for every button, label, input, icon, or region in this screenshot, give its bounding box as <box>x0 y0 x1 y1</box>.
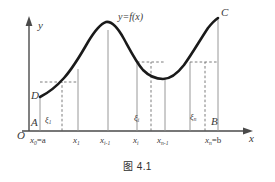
y-axis-label: y <box>38 20 43 31</box>
tick-label-xn: xn=b <box>205 136 221 145</box>
rectangle-tops <box>40 62 218 82</box>
point-a-label: A <box>31 117 38 128</box>
tick-label-x0: x0=a <box>30 136 46 145</box>
point-d-label: D <box>31 90 39 101</box>
y-axis <box>26 16 33 131</box>
curve-label: y=f(x) <box>118 12 143 22</box>
tick-label-xi: xi <box>133 136 139 145</box>
curve-y-equals-f-of-x <box>40 18 218 97</box>
sample-label-xii: ξi <box>134 114 139 123</box>
figure-riemann-sum: y x O A B C D y=f(x) ξ1 ξi ξn x0=a x1 xi… <box>0 0 275 182</box>
sample-label-xi1: ξ1 <box>45 116 51 125</box>
origin-label: O <box>17 130 25 141</box>
tick-label-xn-1: xn-1 <box>157 136 168 145</box>
x-axis-label: x <box>249 133 254 144</box>
point-b-label: B <box>211 116 218 127</box>
tick-label-xi-1: xi-1 <box>100 136 110 145</box>
figure-caption: 图 4.1 <box>0 158 275 173</box>
tick-label-x1: x1 <box>73 136 80 145</box>
point-c-label: C <box>221 7 228 18</box>
sample-label-xin: ξn <box>190 113 196 122</box>
